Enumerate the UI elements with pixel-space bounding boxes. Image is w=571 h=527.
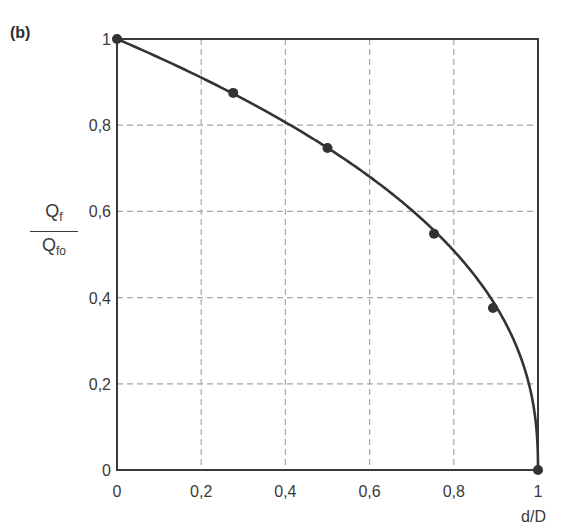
data-point	[228, 88, 238, 98]
x-axis-label: d/D	[521, 508, 546, 525]
x-tick-label: 0,2	[190, 483, 212, 500]
x-tick-label: 0,4	[274, 483, 296, 500]
plot-frame	[117, 39, 538, 470]
y-tick-label: 1	[102, 31, 111, 48]
data-point	[429, 229, 439, 239]
y-tick-label: 0,8	[89, 117, 111, 134]
series-line	[117, 39, 538, 470]
y-tick-label: 0,2	[89, 376, 111, 393]
y-tick-label: 0	[102, 462, 111, 479]
chart: 00,20,40,60,8100,20,40,60,81 d/D	[0, 0, 571, 527]
x-tick-label: 1	[534, 483, 543, 500]
data-point	[533, 465, 543, 475]
y-tick-label: 0,4	[89, 290, 111, 307]
data-point	[488, 303, 498, 313]
x-tick-label: 0,8	[443, 483, 465, 500]
series	[112, 34, 543, 475]
data-point	[323, 143, 333, 153]
x-tick-label: 0	[113, 483, 122, 500]
data-point	[112, 34, 122, 44]
y-tick-label: 0,6	[89, 203, 111, 220]
grid	[117, 39, 538, 470]
axes	[117, 39, 538, 470]
tick-labels: 00,20,40,60,8100,20,40,60,81	[89, 31, 543, 500]
x-tick-label: 0,6	[358, 483, 380, 500]
